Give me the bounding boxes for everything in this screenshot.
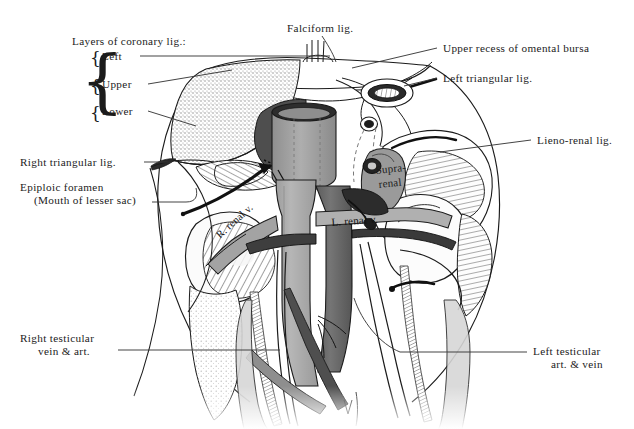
- label-layer-upper: Upper: [102, 78, 132, 92]
- label-right-testicular-vein-art: Right testicular: [20, 332, 94, 346]
- label-epiploic-foramen: Epiploic foramen: [20, 181, 104, 195]
- label-layer-lower: Lower: [102, 105, 133, 119]
- label-falciform-lig: Falciform lig.: [287, 22, 353, 36]
- label-upper-recess-of-omental-bursa: Upper recess of omental bursa: [443, 42, 589, 56]
- label-supra-renal-line2: renal: [378, 176, 402, 190]
- label-layer-left: Left: [102, 50, 122, 64]
- label-left-triangular-lig: Left triangular lig.: [443, 72, 532, 86]
- label-right-testicular-vein-art-line2: vein & art.: [38, 345, 90, 359]
- label-left-testicular-art-vein-line2: art. & vein: [551, 358, 603, 372]
- label-right-triangular-lig: Right triangular lig.: [20, 156, 116, 170]
- label-epiploic-foramen-sub: (Mouth of lesser sac): [34, 194, 136, 208]
- coronary-lig-brace-upper: {: [90, 78, 101, 95]
- plate-bottom-fade: [0, 386, 634, 429]
- label-lieno-renal-lig: Lieno-renal lig.: [537, 134, 612, 148]
- aortic-opening: [361, 117, 378, 131]
- coronary-lig-brace-left: {: [90, 50, 101, 67]
- label-left-testicular-art-vein: Left testicular: [533, 345, 601, 359]
- label-layers-of-coronary-lig: Layers of coronary lig.:: [72, 35, 186, 49]
- coronary-lig-brace-lower: {: [90, 105, 101, 122]
